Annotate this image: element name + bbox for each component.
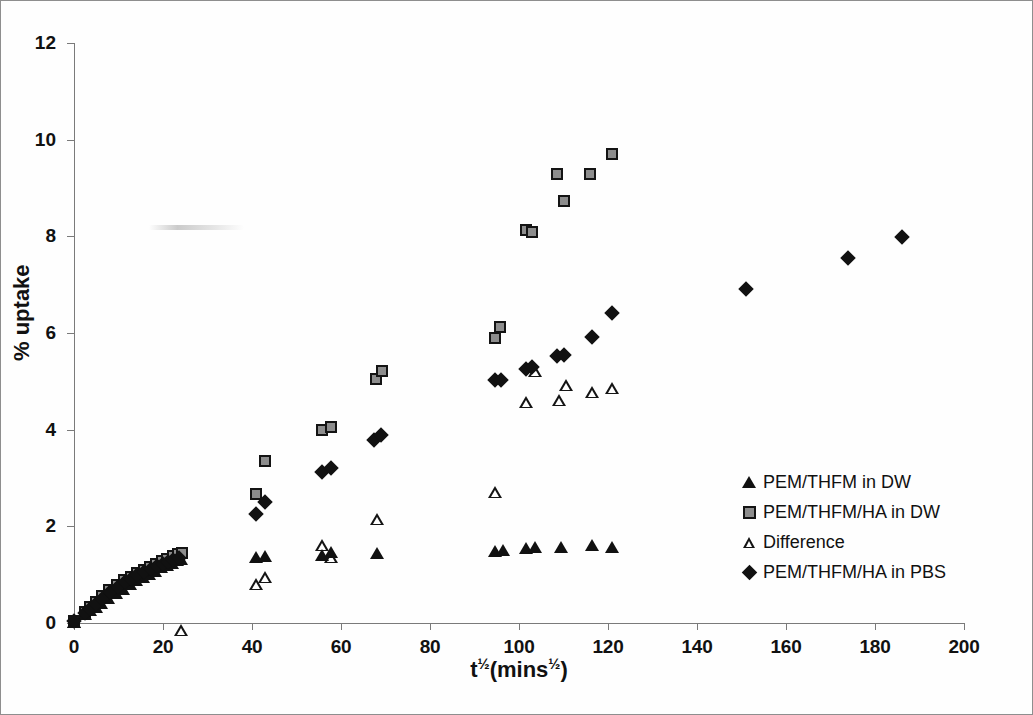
legend-label: PEM/THFM/HA in PBS <box>763 562 946 583</box>
data-point <box>605 382 619 394</box>
data-point <box>526 226 538 238</box>
y-tick-label: 8 <box>45 225 56 247</box>
x-tick-label: 20 <box>153 636 174 658</box>
legend-marker-filled-diamond-icon <box>738 567 760 578</box>
open-triangle-icon <box>743 537 755 548</box>
x-tick-label: 60 <box>331 636 352 658</box>
x-tick-label: 140 <box>682 636 713 658</box>
data-point <box>519 396 533 408</box>
x-tick <box>786 623 787 630</box>
data-point <box>376 365 388 377</box>
x-tick-label: 120 <box>593 636 624 658</box>
y-tick-label: 2 <box>45 515 56 537</box>
y-tick-label: 4 <box>45 419 56 441</box>
x-tick-label: 200 <box>949 636 980 658</box>
y-axis-line <box>74 43 75 623</box>
x-axis-exponent-2: ½ <box>548 656 560 672</box>
data-point <box>606 148 618 160</box>
x-axis-exponent-1: ½ <box>478 656 490 672</box>
x-tick-label: 40 <box>242 636 263 658</box>
y-tick-label: 0 <box>45 612 56 634</box>
y-tick <box>67 43 74 44</box>
filled-diamond-icon <box>741 564 757 580</box>
data-point <box>552 394 566 406</box>
x-axis-title-base: t <box>470 657 477 682</box>
data-point <box>894 230 910 246</box>
legend-item[interactable]: PEM/THFM in DW <box>738 467 1018 497</box>
data-point <box>489 332 501 344</box>
data-point <box>558 195 570 207</box>
x-tick <box>875 623 876 630</box>
x-tick <box>163 623 164 630</box>
y-tick-label: 10 <box>35 129 56 151</box>
data-point <box>584 168 596 180</box>
y-tick <box>67 430 74 431</box>
y-tick-label: 12 <box>35 32 56 54</box>
legend-label: PEM/THFM/HA in DW <box>763 502 940 523</box>
data-point <box>554 541 568 553</box>
legend: PEM/THFM in DWPEM/THFM/HA in DWDifferenc… <box>738 467 1018 587</box>
y-tick <box>67 140 74 141</box>
data-point <box>559 379 573 391</box>
legend-marker-open-triangle-icon <box>738 537 760 548</box>
gray-square-icon <box>743 506 756 519</box>
x-axis-title: t½(mins½) <box>74 656 964 683</box>
legend-item[interactable]: Difference <box>738 527 1018 557</box>
x-tick <box>519 623 520 630</box>
x-tick <box>608 623 609 630</box>
legend-label: Difference <box>763 532 845 553</box>
data-point <box>528 541 542 553</box>
filled-triangle-icon <box>742 476 756 488</box>
x-axis-title-mid: (mins <box>490 657 549 682</box>
data-point <box>585 539 599 551</box>
y-axis-title-text: % uptake <box>9 264 34 361</box>
legend-marker-filled-triangle-icon <box>738 476 760 488</box>
data-point <box>324 546 338 558</box>
data-point <box>841 250 857 266</box>
data-point <box>496 544 510 556</box>
x-tick <box>430 623 431 630</box>
legend-marker-gray-square-icon <box>738 506 760 519</box>
x-tick <box>341 623 342 630</box>
data-point <box>488 486 502 498</box>
x-tick-label: 180 <box>860 636 891 658</box>
data-point <box>248 506 264 522</box>
data-point <box>585 386 599 398</box>
data-point <box>585 329 601 345</box>
data-point <box>174 624 188 636</box>
x-tick-label: 80 <box>420 636 441 658</box>
data-point <box>258 571 272 583</box>
data-point <box>370 547 384 559</box>
x-tick <box>697 623 698 630</box>
x-tick <box>964 623 965 630</box>
x-tick-label: 160 <box>771 636 802 658</box>
data-point <box>325 421 337 433</box>
y-tick <box>67 526 74 527</box>
data-point <box>551 168 563 180</box>
data-point <box>738 281 754 297</box>
y-axis-title: % uptake <box>9 264 35 361</box>
x-tick-label: 0 <box>69 636 79 658</box>
x-tick <box>252 623 253 630</box>
legend-item[interactable]: PEM/THFM/HA in DW <box>738 497 1018 527</box>
x-tick-label: 100 <box>504 636 535 658</box>
legend-label: PEM/THFM in DW <box>763 472 911 493</box>
data-point <box>258 550 272 562</box>
legend-item[interactable]: PEM/THFM/HA in PBS <box>738 557 1018 587</box>
x-axis-title-end: ) <box>560 657 567 682</box>
data-point <box>605 541 619 553</box>
figure-frame: % uptake t½(mins½) 020406080100120140160… <box>0 0 1033 715</box>
data-point <box>605 305 621 321</box>
y-tick-label: 6 <box>45 322 56 344</box>
y-tick <box>67 236 74 237</box>
y-tick <box>67 333 74 334</box>
data-point <box>494 321 506 333</box>
data-point <box>370 513 384 525</box>
data-point <box>259 455 271 467</box>
data-points-layer <box>74 43 964 211</box>
